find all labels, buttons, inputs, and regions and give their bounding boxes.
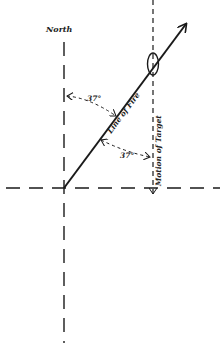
line-of-fire-diagram: North 37° 37° Line of Fire Motion of Tar… — [0, 0, 220, 343]
angle-label-bottom: 37° — [120, 151, 134, 160]
angle-label-top: 37° — [87, 94, 101, 103]
motion-of-target-label: Motion of Target — [154, 115, 163, 187]
line-of-fire-label: Line of Fire — [105, 91, 142, 136]
north-label: North — [45, 24, 73, 34]
